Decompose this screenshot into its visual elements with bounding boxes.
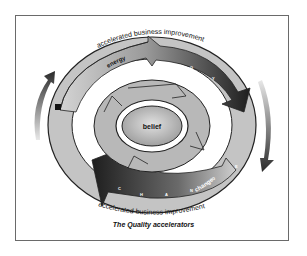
- svg-text:N: N: [190, 188, 193, 193]
- svg-text:E: E: [95, 84, 98, 89]
- svg-text:Y: Y: [212, 76, 215, 81]
- quality-accelerators-diagram: E N E R G Y C H A N G E accelerated busi…: [0, 0, 307, 256]
- belief-label: belief: [143, 123, 162, 130]
- svg-text:G: G: [190, 65, 193, 70]
- svg-text:N: N: [113, 70, 116, 75]
- svg-text:A: A: [165, 192, 168, 197]
- band-tab: [55, 104, 61, 110]
- svg-text:R: R: [165, 61, 168, 66]
- svg-text:E: E: [235, 164, 238, 169]
- svg-text:E: E: [138, 62, 141, 67]
- right-side-arrow: [258, 80, 274, 172]
- svg-text:H: H: [140, 192, 143, 197]
- svg-text:C: C: [118, 186, 121, 191]
- diagram-caption: The Quality accelerators: [0, 221, 307, 228]
